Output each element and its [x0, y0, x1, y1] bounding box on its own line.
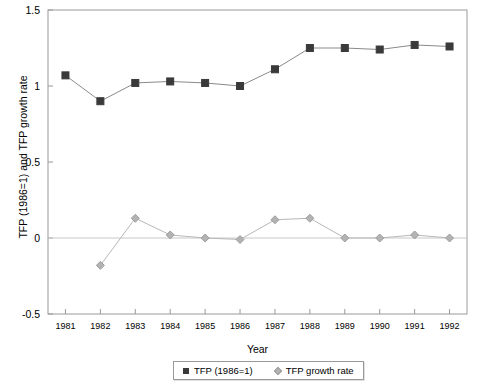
- y-tick-label: 0.5: [6, 157, 40, 167]
- legend-label-tfp: TFP (1986=1): [194, 365, 253, 376]
- chart-legend: TFP (1986=1) TFP growth rate: [173, 361, 364, 380]
- legend-item-growth: TFP growth rate: [275, 365, 354, 376]
- legend-item-tfp: TFP (1986=1): [183, 365, 253, 376]
- square-marker-icon: [183, 368, 189, 374]
- y-tick-label: -0.5: [6, 309, 40, 319]
- y-tick-label: 1.5: [6, 5, 40, 15]
- legend-label-growth: TFP growth rate: [286, 365, 354, 376]
- diamond-marker-icon: [273, 366, 281, 374]
- x-tick-label: 1992: [430, 321, 470, 331]
- y-tick-label: 0: [6, 233, 40, 243]
- tfp-line-chart: TFP (1986=1) and TFP growth rate 1.510.5…: [0, 0, 483, 389]
- x-axis-title: Year: [48, 343, 467, 355]
- y-tick-label: 1: [6, 81, 40, 91]
